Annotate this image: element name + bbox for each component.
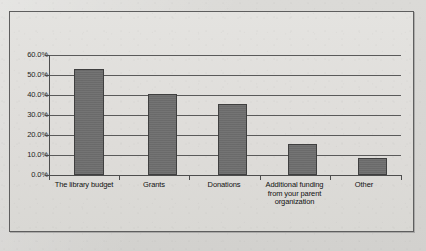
bar-additional-funding	[288, 144, 317, 175]
chart-figure-frame: 60.0% 50.0% 40.0% 30.0% 20.0% 10.0% 0.0%	[9, 11, 414, 232]
y-axis-tick-label: 40.0%	[8, 91, 48, 99]
x-axis-label-line: Other	[319, 181, 409, 190]
y-axis-tick-label: 0.0%	[8, 171, 48, 179]
y-axis-tick-label: 50.0%	[8, 71, 48, 79]
y-axis-tick-label: 10.0%	[8, 151, 48, 159]
scanned-page-background: 60.0% 50.0% 40.0% 30.0% 20.0% 10.0% 0.0%	[0, 0, 426, 251]
y-axis-tick	[45, 95, 49, 96]
gridline-60	[49, 55, 401, 56]
x-axis-tick	[260, 176, 261, 180]
y-axis-tick	[45, 75, 49, 76]
x-axis-tick	[330, 176, 331, 180]
bar-the-library-budget	[74, 69, 104, 175]
plot-area	[49, 55, 401, 175]
x-axis-tick	[49, 176, 50, 180]
x-axis-line	[49, 175, 402, 176]
x-axis-tick	[119, 176, 120, 180]
y-axis-tick-label: 30.0%	[8, 111, 48, 119]
y-axis-line	[49, 55, 50, 176]
y-axis-tick	[45, 155, 49, 156]
x-axis-tick	[401, 176, 402, 180]
x-axis-label-other: Other	[319, 181, 409, 190]
x-axis-tick	[189, 176, 190, 180]
bar-grants	[148, 94, 177, 175]
caption-text-fragment	[12, 240, 412, 251]
y-axis-tick	[45, 55, 49, 56]
y-axis-tick	[45, 115, 49, 116]
y-axis-tick-label: 60.0%	[8, 51, 48, 59]
y-axis-tick-labels: 60.0% 50.0% 40.0% 30.0% 20.0% 10.0% 0.0%	[8, 55, 50, 175]
bar-other	[358, 158, 387, 175]
x-axis-label-line: organization	[242, 198, 347, 207]
y-axis-tick-label: 20.0%	[8, 131, 48, 139]
y-axis-tick	[45, 135, 49, 136]
bar-donations	[218, 104, 247, 175]
